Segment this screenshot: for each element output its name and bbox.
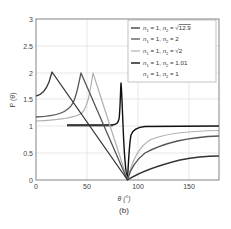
xtick-label: 100 [132,183,144,190]
x-axis-ticks: 0 50 100 150 [34,183,195,190]
y-axis-label: P (θ) [9,92,17,107]
chart-canvas: 0 0.5 1 1.5 2 2.5 3 0 50 100 150 θ (°) P… [0,0,231,229]
legend: n1 = 1, n2 = √12.9 n1 = 1, n2 = 2 n1 = 1… [128,20,216,82]
ytick-label: 2.5 [23,43,33,50]
ytick-label: 3 [29,16,33,23]
x-axis-label: θ (°) [117,195,130,203]
ytick-label: 1 [29,123,33,130]
ytick-label: 2 [29,70,33,77]
ytick-label: 0 [29,177,33,184]
xtick-label: 0 [34,183,38,190]
ytick-label: 0.5 [23,150,33,157]
xtick-label: 50 [83,183,91,190]
figure-caption: (b) [119,206,129,215]
ytick-label: 1.5 [23,96,33,103]
xtick-label: 150 [183,183,195,190]
y-axis-ticks: 0 0.5 1 1.5 2 2.5 3 [23,16,33,184]
